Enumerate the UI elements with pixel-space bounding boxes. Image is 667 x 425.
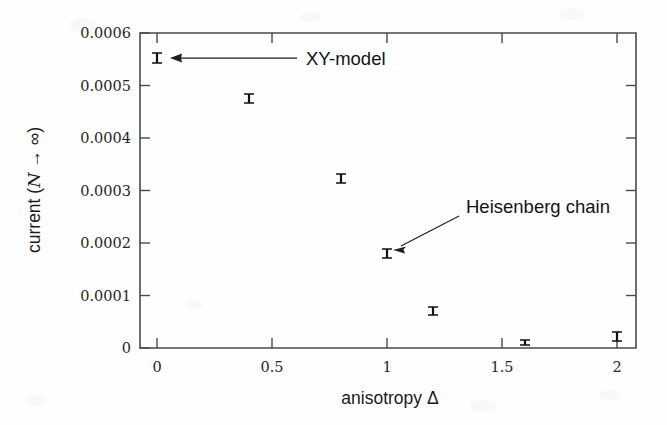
figure-canvas: 0 0.0001 0.0002 0.0003 0.0004 0.0005 0.0… [0, 0, 667, 425]
y-axis-title-prefix: current ( [24, 188, 44, 253]
x-tick-label: 1.5 [490, 359, 513, 375]
y-tick-label: 0.0004 [80, 130, 131, 146]
scatter-plot: 0 0.0001 0.0002 0.0003 0.0004 0.0005 0.0… [0, 0, 667, 425]
annotation-label-xy-model: XY-model [306, 48, 386, 69]
data-point [428, 307, 438, 315]
x-axis-title-text: anisotropy Δ [341, 388, 439, 408]
x-axis-tick-labels: 0 0.5 1 1.5 2 [152, 359, 621, 375]
y-tick-label: 0.0006 [80, 25, 131, 41]
y-axis-title-limit: ∞ [24, 133, 44, 145]
x-tick-label: 2 [612, 359, 621, 375]
annotation-xy-model: XY-model [170, 48, 386, 69]
y-axis-title-suffix: ) [24, 127, 44, 133]
y-axis-title-arrow: → [24, 145, 44, 172]
data-point [520, 340, 530, 345]
annotation-label-heisenberg-chain: Heisenberg chain [466, 196, 610, 217]
y-tick-label: 0 [122, 340, 131, 356]
y-axis-title: current (N → ∞) [24, 127, 44, 253]
data-point [382, 249, 392, 258]
data-point [612, 332, 622, 341]
plot-frame [140, 33, 636, 348]
annotation-heisenberg-chain: Heisenberg chain [393, 196, 610, 254]
svg-text:anisotropy Δ: anisotropy Δ [341, 388, 439, 408]
x-tick-label: 0.5 [260, 359, 283, 375]
y-tick-label: 0.0001 [80, 288, 131, 304]
data-point [152, 53, 162, 63]
y-tick-label: 0.0002 [80, 235, 131, 251]
x-tick-label: 0 [152, 359, 161, 375]
y-axis-ticks [140, 33, 636, 348]
data-point [336, 174, 346, 183]
x-axis-title: anisotropy Δ [341, 388, 439, 408]
y-axis-title-symbol: N [24, 172, 44, 189]
y-tick-label: 0.0005 [80, 78, 131, 94]
y-tick-label: 0.0003 [80, 183, 131, 199]
data-point [244, 94, 254, 103]
x-axis-ticks [157, 33, 617, 348]
y-axis-tick-labels: 0 0.0001 0.0002 0.0003 0.0004 0.0005 0.0… [80, 25, 131, 356]
svg-text:current (N → ∞): current (N → ∞) [24, 127, 44, 253]
x-tick-label: 1 [382, 359, 391, 375]
